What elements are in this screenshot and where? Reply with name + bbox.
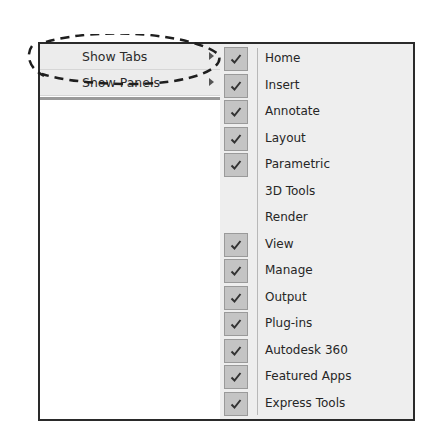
submenu-item-render[interactable]: Render — [220, 205, 413, 231]
menu-divider — [40, 97, 220, 100]
menu-item-show-tabs[interactable]: Show Tabs — [40, 44, 220, 70]
checkmark-icon — [224, 392, 248, 416]
submenu-item-layout[interactable]: Layout — [220, 126, 413, 152]
submenu-item-view[interactable]: View — [220, 232, 413, 258]
submenu-item-autodesk-360[interactable]: Autodesk 360 — [220, 338, 413, 364]
submenu-item-label: Layout — [265, 131, 306, 145]
submenu-arrow-icon — [209, 78, 214, 86]
context-menu: Show Tabs Show Panels HomeInsertAnnotate… — [38, 42, 415, 421]
menu-item-show-panels[interactable]: Show Panels — [40, 70, 220, 96]
submenu-item-annotate[interactable]: Annotate — [220, 99, 413, 125]
submenu-item-label: Autodesk 360 — [265, 343, 348, 357]
submenu-item-featured-apps[interactable]: Featured Apps — [220, 364, 413, 390]
checkmark-icon — [224, 339, 248, 363]
submenu-item-label: Plug-ins — [265, 316, 312, 330]
submenu-item-parametric[interactable]: Parametric — [220, 152, 413, 178]
checkmark-icon — [224, 127, 248, 151]
checkmark-icon — [224, 233, 248, 257]
checkmark-icon — [224, 47, 248, 71]
submenu-item-label: Insert — [265, 78, 299, 92]
show-tabs-submenu: HomeInsertAnnotateLayoutParametric3D Too… — [220, 44, 413, 419]
submenu-item-plug-ins[interactable]: Plug-ins — [220, 311, 413, 337]
menu-item-label: Show Tabs — [82, 49, 147, 64]
checkmark-icon — [224, 74, 248, 98]
checkmark-icon — [224, 153, 248, 177]
ribbon-context-menu: Show Tabs Show Panels — [40, 44, 220, 419]
submenu-item-label: Express Tools — [265, 396, 345, 410]
menu-item-label: Show Panels — [82, 75, 160, 90]
submenu-item-insert[interactable]: Insert — [220, 73, 413, 99]
checkmark-icon — [224, 100, 248, 124]
submenu-item-label: Manage — [265, 263, 313, 277]
checkmark-icon — [224, 286, 248, 310]
submenu-item-label: Featured Apps — [265, 369, 351, 383]
submenu-item-label: 3D Tools — [265, 184, 315, 198]
checkmark-icon — [224, 312, 248, 336]
submenu-item-manage[interactable]: Manage — [220, 258, 413, 284]
checkmark-icon — [224, 259, 248, 283]
submenu-item-label: Home — [265, 51, 300, 65]
submenu-arrow-icon — [209, 52, 214, 60]
submenu-item-home[interactable]: Home — [220, 46, 413, 72]
submenu-item-output[interactable]: Output — [220, 285, 413, 311]
submenu-item-label: Parametric — [265, 157, 330, 171]
submenu-item-label: Output — [265, 290, 307, 304]
submenu-item-label: Annotate — [265, 104, 320, 118]
submenu-item-label: View — [265, 237, 293, 251]
checkmark-icon — [224, 365, 248, 389]
submenu-item-express-tools[interactable]: Express Tools — [220, 391, 413, 417]
submenu-item-3d-tools[interactable]: 3D Tools — [220, 179, 413, 205]
submenu-item-label: Render — [265, 210, 308, 224]
